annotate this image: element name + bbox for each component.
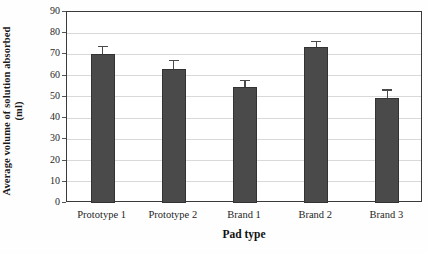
gridline (67, 75, 421, 76)
gridline (67, 54, 421, 55)
y-axis-tick-label: 90 (34, 6, 60, 16)
error-bar-cap (98, 46, 108, 47)
x-axis-tick-label: Brand 3 (341, 209, 428, 221)
error-bar-cap (382, 89, 392, 90)
error-bar-line (173, 60, 174, 70)
bar (162, 69, 186, 203)
plot-area (66, 11, 422, 202)
error-bar-cap (240, 80, 250, 81)
y-axis-tick-label: 60 (34, 70, 60, 80)
y-axis-tick-label: 0 (34, 197, 60, 207)
bar (375, 98, 399, 203)
bar (233, 87, 257, 203)
error-bar-cap (169, 60, 179, 61)
bar-chart-figure: Average volume of solution absorbed (ml)… (0, 0, 428, 254)
y-axis-tick-label: 50 (34, 91, 60, 101)
y-axis-tick-mark (62, 202, 66, 203)
x-axis-title: Pad type (66, 228, 422, 241)
y-axis-tick-label: 40 (34, 112, 60, 122)
bar (304, 47, 328, 203)
y-axis-tick-label: 30 (34, 133, 60, 143)
error-bar-cap (311, 41, 321, 42)
y-axis-tick-label: 80 (34, 27, 60, 37)
y-axis-tick-label: 10 (34, 176, 60, 186)
bar (91, 54, 115, 203)
y-axis-tick-label: 20 (34, 155, 60, 165)
y-axis-tick-label: 70 (34, 48, 60, 58)
gridline (67, 33, 421, 34)
